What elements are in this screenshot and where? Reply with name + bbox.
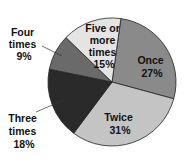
label-three-times: Three times 18% [8,112,40,150]
pie-chart: Once 27% Twice 31% Three times 18% Four … [0,0,188,159]
label-once: Once 27% [137,54,166,79]
label-four-times: Four times 9% [9,26,39,62]
